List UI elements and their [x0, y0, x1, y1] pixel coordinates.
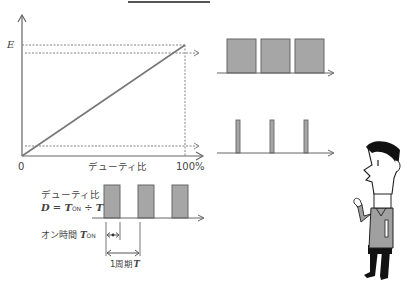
- waveform-high-duty: [217, 39, 334, 76]
- on-time-text: オン時間: [41, 230, 80, 240]
- duty-ratio-title: デューティ比: [41, 190, 100, 200]
- y-axis-label-e: E: [7, 40, 14, 50]
- formula-divide: ÷: [81, 202, 96, 213]
- timing-diagram: [92, 185, 204, 256]
- x-axis-origin-label: 0: [18, 162, 24, 172]
- duty-output-graph: [18, 15, 203, 160]
- period-symbol: T: [133, 259, 139, 269]
- formula-t: T: [64, 202, 71, 213]
- formula-equals: =: [50, 202, 65, 213]
- x-axis-max-label: 100%: [176, 162, 205, 172]
- diagram-canvas: [0, 0, 407, 289]
- duty-ratio-formula: D = TON ÷ T: [41, 203, 103, 213]
- on-time-label: オン時間 TON: [41, 231, 96, 240]
- x-axis-title: デューティ比: [88, 162, 147, 172]
- on-time-symbol: T: [80, 230, 87, 240]
- period-text: 1周期: [110, 259, 133, 269]
- waveform-low-duty: [217, 120, 334, 156]
- formula-on-subscript: ON: [72, 205, 81, 212]
- on-time-subscript: ON: [87, 232, 96, 239]
- cartoon-man-illustration: [354, 141, 400, 280]
- period-label: 1周期T: [110, 260, 140, 269]
- formula-period: T: [96, 202, 103, 213]
- formula-d: D: [41, 202, 50, 213]
